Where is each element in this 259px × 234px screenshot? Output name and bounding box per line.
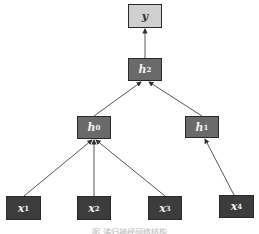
edge-h0-h2 [94, 82, 141, 116]
figure-caption: 图 递归神经网络结构 [0, 226, 259, 234]
node-label: y [142, 10, 148, 23]
node-subscript: 4 [237, 202, 242, 211]
node-subscript: 2 [95, 204, 100, 213]
node-label: h [196, 121, 204, 134]
node-subscript: 3 [166, 204, 171, 213]
node-label: h [88, 121, 96, 134]
node-subscript: 1 [24, 204, 29, 213]
node-label: h [139, 63, 147, 76]
node-y: y [128, 4, 162, 28]
edge-h1-h2 [149, 82, 202, 116]
node-h2: h2 [128, 58, 162, 81]
node-subscript: 2 [147, 65, 152, 74]
node-h0: h0 [77, 116, 111, 139]
node-x3: x3 [148, 196, 182, 220]
node-subscript: 0 [96, 123, 101, 132]
node-h1: h1 [185, 116, 219, 138]
node-x2: x2 [77, 196, 111, 220]
edge-x4-h1 [205, 139, 234, 195]
node-x4: x4 [219, 195, 254, 218]
node-x1: x1 [6, 196, 41, 220]
node-subscript: 1 [204, 123, 209, 132]
edge-x1-h0 [24, 140, 92, 196]
edge-x3-h0 [96, 140, 165, 196]
